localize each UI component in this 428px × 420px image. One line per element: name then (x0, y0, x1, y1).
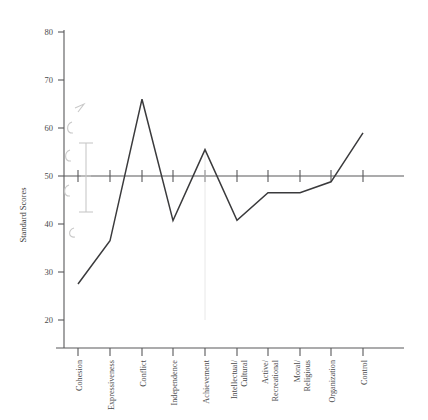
y-tick-label: 30 (45, 267, 54, 277)
x-tick-label-independence: Independence (170, 360, 179, 406)
x-axis-tick-labels: Cohesion Expressiveness Conflict Indepen… (75, 359, 369, 410)
x-tick-label-active-recreational-1: Active/ (261, 359, 270, 384)
line-chart: 80 70 60 50 40 30 20 Standard Scores (0, 0, 428, 420)
x-tick-label-achievement: Achievement (202, 359, 211, 403)
x-tick-label-cohesion: Cohesion (75, 360, 84, 391)
x-tick-label-intellectual-cultural-2: Cultural (240, 359, 249, 387)
y-axis-ticks (58, 32, 64, 320)
x-tick-label-active-recreational-2: Recreational (271, 359, 280, 401)
x-tick-label-moral-religious-1: Moral/ (293, 359, 302, 382)
y-tick-label: 50 (45, 171, 54, 181)
x-tick-label-control: Control (360, 359, 369, 385)
x-tick-label-organization: Organization (328, 360, 337, 403)
y-axis-title: Standard Scores (18, 187, 28, 242)
y-tick-label: 60 (45, 123, 54, 133)
x-axis-ticks (78, 348, 363, 356)
y-tick-label: 40 (45, 219, 54, 229)
y-tick-label: 70 (45, 75, 54, 85)
x-tick-label-intellectual-cultural-1: Intellectual/ (230, 359, 239, 399)
x-tick-label-expressiveness: Expressiveness (107, 360, 116, 410)
y-axis-tick-labels: 80 70 60 50 40 30 20 (45, 27, 54, 325)
x-tick-label-moral-religious-2: Religious (303, 360, 312, 391)
data-series-line (78, 99, 363, 284)
x-tick-label-conflict: Conflict (139, 359, 148, 387)
chart-container: 80 70 60 50 40 30 20 Standard Scores (0, 0, 428, 420)
y-tick-label: 80 (45, 27, 54, 37)
handwritten-annotation (65, 104, 93, 237)
y-tick-label: 20 (45, 315, 54, 325)
